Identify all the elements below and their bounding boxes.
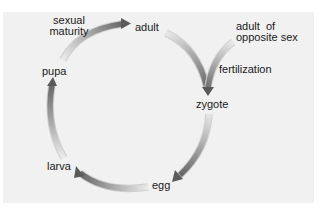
arrow-egg-to-larva bbox=[74, 166, 148, 188]
label-egg: egg bbox=[152, 180, 170, 191]
arrow-zygote-to-egg bbox=[172, 114, 209, 182]
label-maturity: maturity bbox=[46, 26, 92, 37]
label-pupa: pupa bbox=[42, 66, 66, 77]
label-adult: adult bbox=[135, 22, 159, 33]
label-zygote: zygote bbox=[196, 99, 228, 110]
arrow-adult-to-zygote bbox=[166, 33, 207, 88]
label-sexual-maturity: sexual maturity bbox=[46, 15, 92, 37]
label-opposite-sex: opposite sex bbox=[236, 32, 298, 43]
arrow-larva-to-pupa bbox=[47, 77, 64, 158]
label-larva: larva bbox=[47, 161, 71, 172]
label-adult-of-opposite-sex: adult of opposite sex bbox=[236, 21, 298, 43]
label-fertilization: fertilization bbox=[219, 64, 272, 75]
